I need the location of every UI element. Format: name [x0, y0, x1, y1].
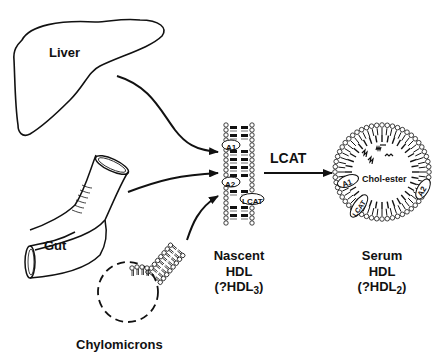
- apoprotein-a1-nascent-label: A1: [226, 140, 236, 155]
- nascent-hdl-line1: Nascent: [209, 248, 269, 264]
- liver-outline: [14, 19, 164, 135]
- chylomicron-surface-fragment: [130, 242, 186, 285]
- arrow-liver-to-nascent-hdl: [117, 76, 218, 152]
- serum-hdl-line1: Serum: [352, 248, 412, 264]
- nascent-hdl-line3-suffix: ): [259, 279, 263, 294]
- nascent-hdl-line3: (?HDL3): [209, 279, 269, 299]
- arrow-gut-to-nascent-hdl: [128, 173, 218, 192]
- nascent-hdl-line3-prefix: (?HDL: [215, 279, 254, 294]
- serum-hdl-line2: HDL: [352, 264, 412, 280]
- serum-hdl-line3-prefix: (?HDL: [358, 279, 397, 294]
- arrow-chylomicrons-to-nascent-hdl: [187, 196, 218, 240]
- serum-hdl-line3: (?HDL2): [352, 279, 412, 299]
- liver-label: Liver: [49, 45, 80, 60]
- nascent-hdl-disc: [222, 123, 264, 225]
- lcat-arrow-label: LCAT: [270, 151, 306, 166]
- gut-label: Gut: [44, 238, 66, 253]
- chylomicrons-label: Chylomicrons: [76, 337, 163, 352]
- chol-ester-label: Chol-ester: [362, 172, 407, 187]
- lcat-nascent-label: LCAT: [242, 194, 263, 209]
- gut-illustration: [25, 152, 131, 278]
- nascent-hdl-line2: HDL: [209, 264, 269, 280]
- serum-hdl-line3-suffix: ): [402, 279, 406, 294]
- serum-hdl-caption: Serum HDL (?HDL2): [352, 248, 412, 299]
- apoprotein-a2-nascent-label: A2: [225, 177, 235, 192]
- nascent-hdl-caption: Nascent HDL (?HDL3): [209, 248, 269, 299]
